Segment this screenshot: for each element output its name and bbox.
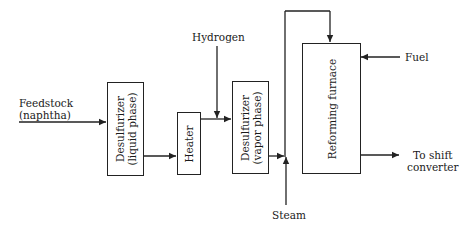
- hydrogen-label: Hydrogen: [192, 31, 245, 43]
- heater-label: Heater: [183, 125, 195, 162]
- feedstock-label: Feedstock (naphtha): [19, 97, 73, 121]
- desulfurizer-liquid-line2: (liquid phase): [126, 92, 138, 165]
- fuel-label: Fuel: [405, 51, 429, 63]
- desulfurizer-vapor-box: Desulfurizer (vapor phase): [232, 81, 269, 174]
- shift-converter-line1: To shift: [407, 149, 459, 161]
- feedstock-label-line1: Feedstock: [19, 97, 73, 109]
- desulfurizer-vapor-line2: (vapor phase): [251, 91, 263, 164]
- shift-converter-label: To shift converter: [407, 149, 459, 173]
- reforming-furnace-label: Reforming furnace: [326, 58, 338, 158]
- heater-box: Heater: [177, 112, 201, 175]
- desulfurizer-vapor-line1: Desulfurizer: [239, 91, 251, 164]
- desulfurizer-liquid-label: Desulfurizer (liquid phase): [114, 92, 138, 165]
- shift-converter-line2: converter: [407, 161, 459, 173]
- reforming-furnace-box: Reforming furnace: [302, 43, 361, 174]
- desulfurizer-liquid-line1: Desulfurizer: [114, 92, 126, 165]
- desulfurizer-vapor-label: Desulfurizer (vapor phase): [239, 91, 263, 164]
- desulfurizer-liquid-box: Desulfurizer (liquid phase): [107, 82, 144, 176]
- steam-label: Steam: [272, 209, 306, 221]
- feedstock-label-line2: (naphtha): [19, 109, 73, 121]
